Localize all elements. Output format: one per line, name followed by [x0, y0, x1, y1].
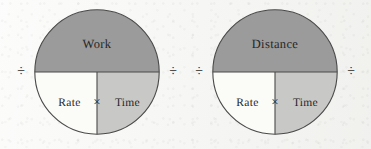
- work-time-label: Time: [100, 98, 155, 110]
- work-formula-diagram: ÷ Work Rate × Time ÷: [14, 0, 174, 149]
- divide-icon-left-work: ÷: [14, 64, 28, 80]
- divide-icon-right-work: ÷: [166, 64, 180, 80]
- diagram-stage: ÷ Work Rate × Time ÷ ÷: [0, 0, 371, 149]
- work-top-label: Work: [34, 38, 160, 51]
- work-circle: Work Rate × Time: [34, 9, 160, 135]
- distance-circle-svg: [212, 9, 338, 135]
- distance-time-label: Time: [278, 98, 333, 110]
- divide-icon-left-distance: ÷: [192, 64, 206, 80]
- distance-circle: Distance Rate × Time: [212, 9, 338, 135]
- distance-formula-diagram: ÷ Distance Rate × Time ÷: [192, 0, 352, 149]
- divide-icon-right-distance: ÷: [344, 64, 358, 80]
- work-circle-svg: [34, 9, 160, 135]
- distance-top-label: Distance: [212, 38, 338, 51]
